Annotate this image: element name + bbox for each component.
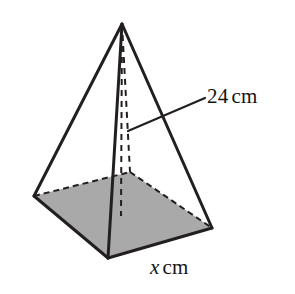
base-edge-value: x [150,255,160,279]
base-edge-unit: cm [163,255,189,279]
lateral-edge-apex-left [34,24,122,196]
hidden-edge-apex-back [122,24,130,172]
pyramid-base-face [34,172,212,258]
pyramid-drawing [0,0,295,294]
slant-height-value: 24 [207,84,228,108]
pyramid-figure: 24cm xcm [0,0,295,294]
slant-height-label: 24cm [207,86,257,107]
base-edge-label: xcm [150,257,189,278]
slant-height-unit: cm [231,84,257,108]
